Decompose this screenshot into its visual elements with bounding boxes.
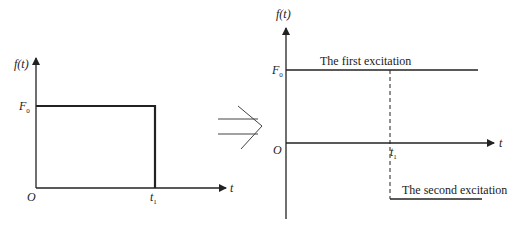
left-x-axis-label: t <box>230 181 234 195</box>
right-x-axis-label: t <box>499 136 503 150</box>
diagram-canvas: f(t) t O F0 t1 f(t) t O F0 t1 The first … <box>0 0 516 233</box>
right-f0-label: F0 <box>271 63 283 79</box>
second-excitation-label: The second excitation <box>402 183 507 197</box>
left-t1-label: t1 <box>150 190 157 206</box>
left-plot: f(t) t O F0 t1 <box>14 57 234 206</box>
left-y-axis-label: f(t) <box>14 57 29 71</box>
first-excitation-label: The first excitation <box>320 54 411 68</box>
right-origin-label: O <box>273 143 282 157</box>
right-plot: f(t) t O F0 t1 The first excitation The … <box>271 7 507 219</box>
left-f0-label: F0 <box>18 99 30 115</box>
left-origin-label: O <box>27 190 36 204</box>
right-y-axis-label: f(t) <box>276 7 291 21</box>
implies-arrow-icon <box>218 106 262 149</box>
right-t1-label: t1 <box>390 145 397 161</box>
left-rectangular-pulse <box>36 106 155 188</box>
